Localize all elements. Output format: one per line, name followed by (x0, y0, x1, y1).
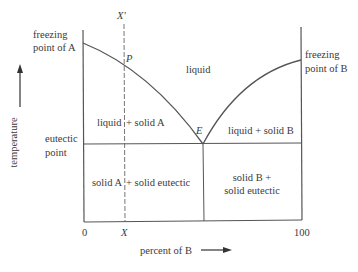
point-e-label: E (196, 124, 202, 137)
freezing-point-b-label-1: freezing (305, 48, 339, 61)
x-axis-label: percent of B (140, 244, 192, 257)
region-liquid-solid-a-label-left: liquid (97, 116, 122, 129)
region-solid-a-eutectic-label-left: solid A (92, 176, 122, 189)
eutectic-point-label-1: eutectic (45, 132, 78, 145)
eutectic-point-label-2: point (45, 146, 67, 159)
percent-arrow-icon (223, 247, 232, 253)
eutectic-line (83, 143, 301, 144)
region-solid-a-eutectic-label-right: + solid eutectic (126, 176, 190, 189)
region-liquid-solid-b-label: liquid + solid B (228, 124, 294, 137)
region-solid-b-eutectic-label-1: solid B + (222, 171, 282, 184)
right-axis-line (301, 27, 302, 220)
freezing-point-b-label-2: point of B (305, 62, 348, 75)
y-axis-label: temperature (7, 117, 20, 167)
x-prime-label: X′ (117, 9, 126, 22)
region-solid-b-eutectic-label-2: solid eutectic (217, 184, 287, 197)
left-axis-line (83, 30, 84, 222)
freezing-point-a-label-1: freezing (33, 28, 67, 41)
x-axis-min-label: 0 (82, 226, 87, 239)
eutectic-composition-line (203, 144, 204, 221)
x-composition-label: X (121, 226, 127, 239)
x-axis-max-label: 100 (294, 226, 310, 239)
bottom-axis-line (84, 220, 302, 222)
point-p-label: P (126, 52, 132, 65)
region-liquid-solid-a-label-right: + solid A (126, 116, 165, 129)
freezing-point-a-label-2: point of A (33, 41, 76, 54)
temperature-arrow-icon (17, 64, 23, 73)
composition-dashed-line (124, 24, 125, 222)
region-liquid-label: liquid (186, 63, 211, 76)
